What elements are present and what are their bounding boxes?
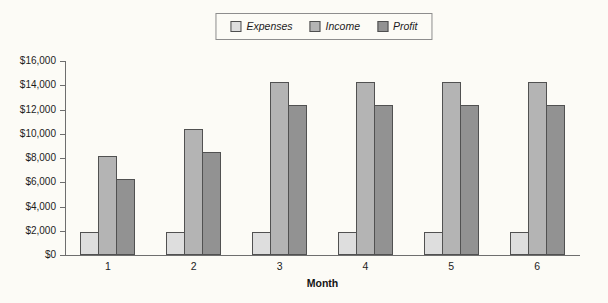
x-axis-label: 5 — [431, 261, 471, 272]
plot-area: $0$2,000$4,000$6,000$8,000$10,000$12,000… — [0, 0, 608, 303]
x-axis-label: 6 — [517, 261, 557, 272]
x-axis-label: 4 — [345, 261, 385, 272]
bar-expenses-month-1 — [80, 232, 99, 255]
x-axis-label: 1 — [88, 261, 128, 272]
y-axis-label: $6,000 — [0, 177, 56, 187]
y-axis-label: $0 — [0, 250, 56, 260]
bar-expenses-month-5 — [424, 232, 443, 255]
y-axis-line — [65, 61, 66, 255]
bar-income-month-2 — [184, 129, 203, 255]
y-axis-tick — [60, 61, 65, 62]
y-axis-label: $14,000 — [0, 80, 56, 90]
y-axis-label: $4,000 — [0, 202, 56, 212]
bar-profit-month-4 — [374, 105, 393, 255]
bar-expenses-month-6 — [510, 232, 529, 255]
y-axis-label: $16,000 — [0, 56, 56, 66]
y-axis-tick — [60, 85, 65, 86]
bar-income-month-5 — [442, 82, 461, 255]
y-axis-tick — [60, 207, 65, 208]
bar-chart-figure: ExpensesIncomeProfit $0$2,000$4,000$6,00… — [0, 0, 608, 303]
bar-profit-month-2 — [202, 152, 221, 255]
x-axis-label: 2 — [174, 261, 214, 272]
y-axis-label: $2,000 — [0, 226, 56, 236]
y-axis-tick — [60, 110, 65, 111]
y-axis-tick — [60, 158, 65, 159]
bar-profit-month-6 — [546, 105, 565, 255]
bar-expenses-month-2 — [166, 232, 185, 255]
y-axis-tick — [60, 255, 65, 256]
y-axis-tick — [60, 182, 65, 183]
y-axis-label: $12,000 — [0, 105, 56, 115]
bar-income-month-4 — [356, 82, 375, 255]
bar-expenses-month-3 — [252, 232, 271, 255]
y-axis-label: $10,000 — [0, 129, 56, 139]
y-axis-tick — [60, 231, 65, 232]
bar-income-month-6 — [528, 82, 547, 255]
bar-profit-month-1 — [116, 179, 135, 255]
bar-profit-month-3 — [288, 105, 307, 255]
x-axis-line — [65, 255, 580, 256]
bar-income-month-1 — [98, 156, 117, 255]
y-axis-label: $8,000 — [0, 153, 56, 163]
x-axis-title: Month — [65, 277, 580, 289]
x-axis-label: 3 — [260, 261, 300, 272]
y-axis-tick — [60, 134, 65, 135]
bar-expenses-month-4 — [338, 232, 357, 255]
bar-profit-month-5 — [460, 105, 479, 255]
bar-income-month-3 — [270, 82, 289, 255]
